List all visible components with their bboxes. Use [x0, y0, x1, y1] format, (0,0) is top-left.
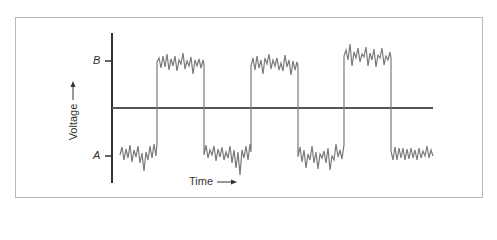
y-axis-label: Voltage: [67, 92, 79, 152]
x-axis-label: Time: [189, 175, 213, 187]
time-arrow-head: [231, 180, 237, 185]
signal-waveform: [120, 44, 433, 175]
tick-label-a: A: [93, 149, 100, 161]
voltage-arrow-head: [71, 81, 76, 87]
tick-label-b: B: [93, 54, 100, 66]
